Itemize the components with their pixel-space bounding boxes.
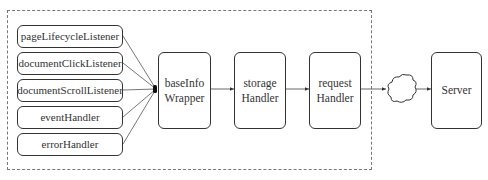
source-error-handler: errorHandler (17, 133, 123, 156)
baseinfo-wrapper-node: baseInfoWrapper (158, 52, 211, 129)
storage-handler-node: storageHandler (234, 52, 286, 129)
source-page-lifecycle-listener: pageLifecycleListener (17, 25, 123, 48)
cloud-icon (388, 74, 416, 102)
source-document-click-listener: documentClickListener (17, 52, 123, 75)
request-handler-node: requestHandler (309, 52, 361, 129)
server-node: Server (431, 52, 482, 129)
source-event-handler: eventHandler (17, 106, 123, 129)
junction-dot (153, 85, 157, 93)
source-document-scroll-listener: documentScrollListener (17, 79, 123, 102)
